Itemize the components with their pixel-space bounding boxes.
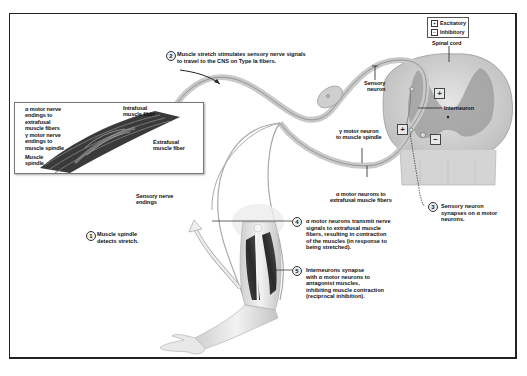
extrafusal-fiber-label: Extrafusal muscle fiber [153, 139, 185, 152]
alpha-motor-neurons-label: α motor neurons to extrafusal muscle fib… [330, 191, 392, 204]
step-2-text: Muscle stretch stimulates sensory nerve … [177, 51, 306, 64]
step-1-text: Muscle spindle detects stretch. [97, 231, 138, 244]
gamma-motor-endings-label: γ motor nerve endings to muscle spindle [25, 132, 64, 151]
muscle-spindle-label: Muscle spindle [25, 154, 44, 167]
legend-item-inhibitory: − Inhibitory [431, 28, 468, 36]
step-4-number: 4 [292, 217, 302, 227]
interneuron-label: Interneuron [444, 105, 474, 111]
step-1-number: 1 [86, 231, 96, 241]
minus-box-icon: − [431, 29, 438, 36]
inhibitory-minus-icon: − [430, 134, 441, 145]
step-4-text: α motor neurons transmit nerve signals t… [306, 218, 391, 251]
step-2-number: 2 [166, 51, 176, 61]
excitatory-plus-icon: + [434, 88, 445, 99]
plus-box-icon: + [431, 20, 438, 27]
step-5-number: 5 [292, 266, 302, 276]
sensory-endings-label: Sensory nerve endings [136, 193, 173, 206]
legend-item-excitatory: + Excitatory [431, 19, 468, 27]
spinal-cord-label: Spinal cord [432, 40, 461, 46]
arm-illustration [160, 204, 292, 354]
step-3-text: Sensory neuron synapses on α motor neuro… [441, 203, 497, 223]
alpha-motor-endings-label: α motor nerve endings to extrafusal musc… [25, 106, 61, 132]
spinal-cord-cross-section [383, 46, 512, 185]
legend: + Excitatory − Inhibitory [427, 17, 469, 38]
muscle-spindle-inset: α motor nerve endings to extrafusal musc… [14, 102, 204, 174]
step-5-text: Interneurons synapse with α motor neuron… [306, 267, 384, 300]
gamma-motor-neuron-label: γ motor neuron to muscle spindle [336, 128, 382, 141]
step-3-number: 3 [428, 202, 438, 212]
sensory-neuron-label: Sensory neuron [364, 80, 385, 93]
intrafusal-fiber-label: Intrafusal muscle fiber [123, 105, 155, 118]
excitatory-plus-icon: + [397, 124, 408, 135]
